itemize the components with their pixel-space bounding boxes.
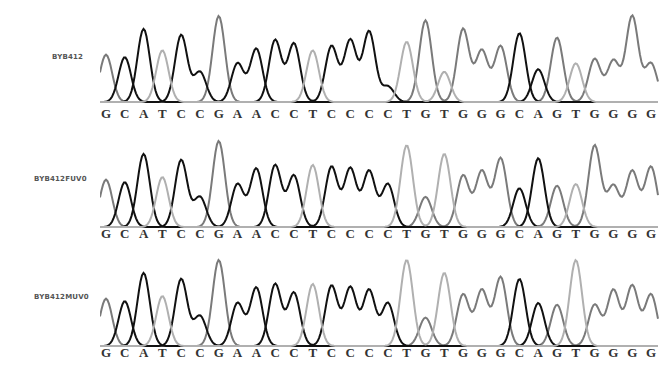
base-call: C [175, 226, 187, 242]
base-call: T [401, 345, 413, 361]
base-call: C [363, 106, 375, 122]
base-call: A [138, 345, 150, 361]
base-call: C [326, 226, 338, 242]
base-call: T [438, 226, 450, 242]
base-call: G [419, 106, 431, 122]
base-call: C [194, 226, 206, 242]
sequence-row: GCATCCGAACCTCCCCTGTGGGCAGTGGGG [100, 345, 660, 361]
base-call: G [213, 226, 225, 242]
base-call: T [307, 345, 319, 361]
base-call: G [626, 226, 638, 242]
base-call: T [156, 106, 168, 122]
base-call: G [551, 226, 563, 242]
base-call: G [100, 106, 112, 122]
base-call: C [382, 106, 394, 122]
base-call: C [344, 345, 356, 361]
base-call: A [250, 106, 262, 122]
base-call: C [513, 106, 525, 122]
base-call: G [476, 226, 488, 242]
base-call: C [269, 345, 281, 361]
base-call: G [457, 106, 469, 122]
base-call: G [645, 106, 657, 122]
base-call: G [495, 345, 507, 361]
chromatogram-trace [100, 252, 660, 352]
trace-G [100, 15, 658, 102]
chromatogram-trace [100, 133, 660, 233]
base-call: C [382, 345, 394, 361]
base-call: G [551, 345, 563, 361]
trace-C [100, 279, 658, 346]
base-call: T [401, 226, 413, 242]
base-call: C [326, 345, 338, 361]
base-call: C [288, 106, 300, 122]
base-call: C [269, 106, 281, 122]
base-call: C [363, 345, 375, 361]
base-call: T [401, 106, 413, 122]
base-call: G [551, 106, 563, 122]
base-call: C [344, 226, 356, 242]
base-call: C [288, 345, 300, 361]
base-call: C [344, 106, 356, 122]
base-call: C [194, 345, 206, 361]
base-call: G [645, 226, 657, 242]
base-call: G [626, 345, 638, 361]
base-call: T [156, 226, 168, 242]
base-call: G [645, 345, 657, 361]
base-call: A [232, 106, 244, 122]
base-call: G [607, 345, 619, 361]
base-call: C [119, 226, 131, 242]
chromatogram-trace [100, 8, 660, 108]
base-call: G [589, 226, 601, 242]
base-call: G [419, 226, 431, 242]
base-call: T [438, 106, 450, 122]
base-call: A [250, 345, 262, 361]
base-call: G [495, 226, 507, 242]
base-call: C [326, 106, 338, 122]
base-call: G [419, 345, 431, 361]
track-label: BYB412 [52, 53, 83, 61]
base-call: G [213, 106, 225, 122]
base-call: T [307, 226, 319, 242]
base-call: G [589, 106, 601, 122]
base-call: A [232, 226, 244, 242]
base-call: G [457, 345, 469, 361]
sequence-row: GCATCCGAACCTCCCCTGTGGGCAGTGGGG [100, 226, 660, 242]
base-call: G [100, 226, 112, 242]
base-call: C [513, 226, 525, 242]
base-call: C [119, 345, 131, 361]
base-call: G [457, 226, 469, 242]
base-call: T [570, 345, 582, 361]
base-call: G [476, 106, 488, 122]
base-call: A [532, 345, 544, 361]
base-call: G [495, 106, 507, 122]
base-call: G [476, 345, 488, 361]
sequence-row: GCATCCGAACCTCCCCTGTGGGCAGTGGGG [100, 106, 660, 122]
base-call: A [138, 106, 150, 122]
base-call: C [194, 106, 206, 122]
base-call: C [288, 226, 300, 242]
base-call: C [513, 345, 525, 361]
base-call: C [119, 106, 131, 122]
base-call: A [232, 345, 244, 361]
track-label: BYB412FUV0 [34, 175, 87, 183]
base-call: C [269, 226, 281, 242]
base-call: G [607, 106, 619, 122]
base-call: A [250, 226, 262, 242]
base-call: T [156, 345, 168, 361]
base-call: A [532, 226, 544, 242]
trace-G [100, 260, 658, 346]
base-call: G [213, 345, 225, 361]
trace-T [100, 146, 658, 227]
base-call: G [626, 106, 638, 122]
base-call: G [589, 345, 601, 361]
base-call: T [438, 345, 450, 361]
base-call: T [570, 226, 582, 242]
trace-T [100, 42, 658, 102]
base-call: A [532, 106, 544, 122]
base-call: C [363, 226, 375, 242]
base-call: T [570, 106, 582, 122]
trace-T [100, 260, 658, 346]
base-call: C [382, 226, 394, 242]
base-call: A [138, 226, 150, 242]
base-call: G [100, 345, 112, 361]
